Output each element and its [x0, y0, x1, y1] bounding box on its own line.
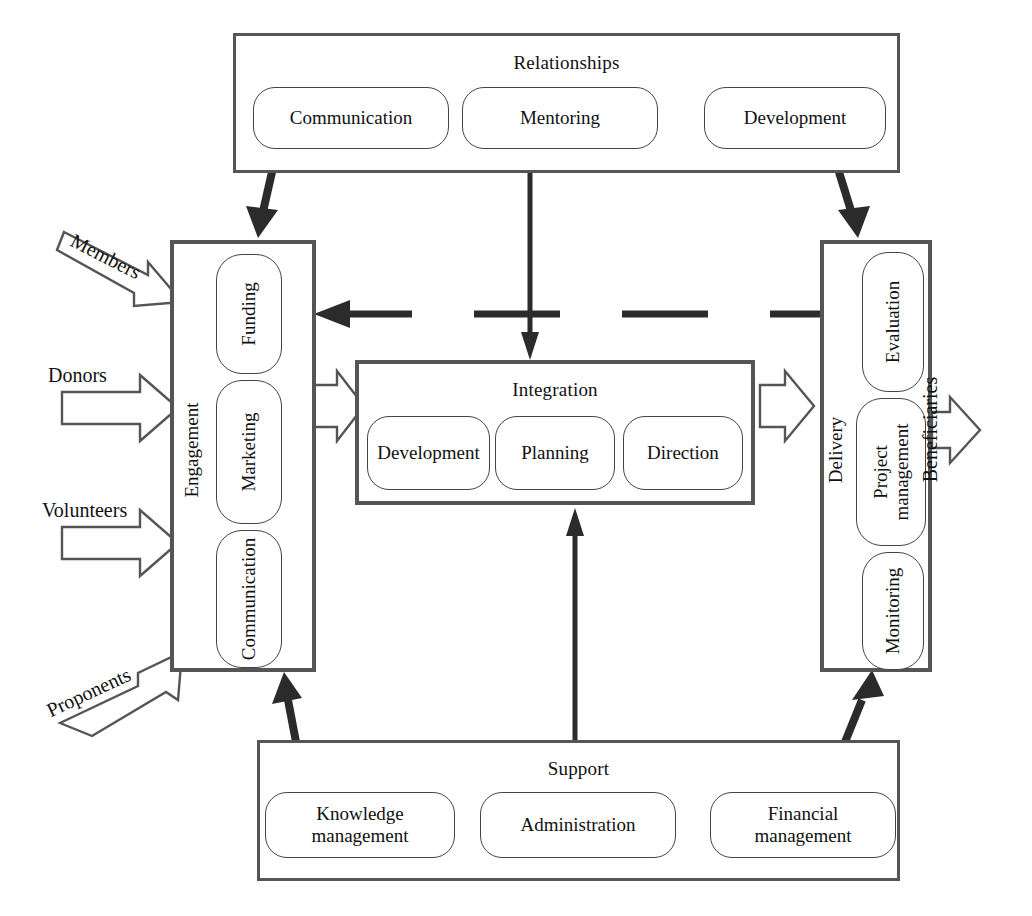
group-engagement[interactable]: Engagement Funding Marketing Communicati…: [170, 240, 316, 672]
pill-delivery-project-management[interactable]: Projectmanagement: [856, 398, 926, 546]
pill-label: Development: [744, 107, 846, 129]
input-label-volunteers: Volunteers: [42, 499, 127, 522]
connector-support-to-delivery: [845, 670, 884, 742]
pill-relationships-development[interactable]: Development: [704, 87, 886, 149]
pill-label: Development: [377, 442, 479, 464]
pill-delivery-monitoring[interactable]: Monitoring: [862, 552, 924, 670]
output-label-beneficiaries: Beneficiaries: [919, 350, 942, 510]
pill-label: Mentoring: [520, 107, 600, 129]
group-integration-title: Integration: [359, 379, 751, 401]
diagram-canvas: Relationships Communication Mentoring De…: [0, 0, 1032, 916]
group-delivery[interactable]: Delivery Evaluation Projectmanagement Mo…: [820, 240, 932, 672]
connector-relationships-to-integration: [521, 172, 539, 360]
pill-label: Projectmanagement: [870, 423, 912, 520]
pill-label: Knowledgemanagement: [311, 803, 408, 847]
pill-integration-planning[interactable]: Planning: [495, 416, 615, 490]
pill-label: Planning: [521, 442, 589, 464]
pill-engagement-communication[interactable]: Communication: [216, 530, 282, 668]
group-support-title: Support: [260, 758, 897, 780]
group-engagement-title: Engagement: [181, 390, 203, 510]
input-label-donors: Donors: [48, 364, 107, 387]
connector-relationships-to-delivery: [838, 172, 870, 238]
pill-engagement-funding[interactable]: Funding: [216, 254, 282, 374]
pill-label: Communication: [290, 107, 412, 129]
pill-support-knowledge-management[interactable]: Knowledgemanagement: [265, 792, 455, 858]
group-relationships[interactable]: Relationships Communication Mentoring De…: [233, 33, 900, 173]
pill-label: Evaluation: [882, 281, 904, 363]
pill-label: Funding: [238, 282, 260, 345]
connector-support-to-engagement: [272, 672, 302, 742]
group-delivery-title: Delivery: [825, 390, 847, 510]
pill-integration-direction[interactable]: Direction: [623, 416, 743, 490]
pill-relationships-communication[interactable]: Communication: [253, 87, 449, 149]
pill-delivery-evaluation[interactable]: Evaluation: [862, 252, 924, 392]
group-support[interactable]: Support Knowledgemanagement Administrati…: [257, 740, 900, 881]
pill-label: Communication: [238, 538, 260, 660]
pill-support-administration[interactable]: Administration: [480, 792, 676, 858]
pill-engagement-marketing[interactable]: Marketing: [216, 380, 282, 524]
group-relationships-title: Relationships: [236, 52, 897, 74]
pill-label: Administration: [520, 814, 635, 836]
pill-relationships-mentoring[interactable]: Mentoring: [462, 87, 658, 149]
pill-label: Monitoring: [882, 568, 904, 655]
pill-label: Marketing: [238, 412, 260, 491]
connector-relationships-to-engagement: [246, 172, 278, 238]
pill-label: Direction: [647, 442, 719, 464]
connector-support-to-integration: [566, 508, 584, 742]
pill-label: Financialmanagement: [754, 803, 851, 847]
pill-integration-development[interactable]: Development: [367, 416, 490, 490]
connector-integration-to-delivery: [760, 371, 814, 441]
group-integration[interactable]: Integration Development Planning Directi…: [355, 360, 755, 505]
connector-delivery-to-engagement-feedback: [314, 300, 856, 328]
pill-support-financial-management[interactable]: Financialmanagement: [710, 792, 896, 858]
